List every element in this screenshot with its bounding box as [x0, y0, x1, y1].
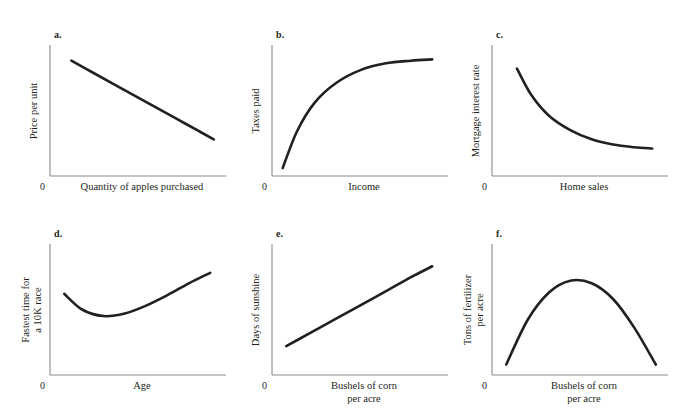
origin-zero-label-c: 0 — [482, 181, 487, 192]
panel-tag-f: f. — [496, 228, 502, 239]
panel-tag-e: e. — [276, 228, 283, 239]
data-curve-c — [517, 69, 652, 149]
panel-e: e.0Bushels of corn per acreDays of sunsh… — [222, 199, 448, 404]
panel-tag-a: a. — [54, 29, 62, 40]
x-axis-label-a: Quantity of apples purchased — [56, 181, 228, 194]
panel-tag-c: c. — [496, 29, 503, 40]
data-curve-f — [506, 280, 656, 365]
y-axis-label-f: Tons of fertilizer per acre — [460, 244, 486, 375]
panel-tag-d: d. — [54, 228, 62, 239]
panel-c: c.0Home salesMortgage interest rate — [442, 0, 668, 205]
panel-f: f.0Bushels of corn per acreTons of ferti… — [442, 199, 668, 404]
x-axis-label-f: Bushels of corn per acre — [498, 380, 670, 405]
panel-tag-b: b. — [276, 29, 284, 40]
y-axis-label-b: Taxes paid — [248, 45, 262, 176]
panel-d: d.0AgeFastest time for a 10K race — [0, 199, 226, 404]
origin-zero-label-b: 0 — [262, 181, 267, 192]
panel-b: b.0IncomeTaxes paid — [222, 0, 448, 205]
panel-a: a.0Quantity of apples purchasedPrice per… — [0, 0, 226, 205]
x-axis-label-e: Bushels of corn per acre — [278, 380, 450, 405]
origin-zero-label-f: 0 — [482, 380, 487, 391]
x-axis-label-c: Home sales — [498, 181, 670, 194]
data-curve-e — [286, 266, 432, 346]
x-axis-label-d: Age — [56, 380, 228, 393]
origin-zero-label-d: 0 — [40, 380, 45, 391]
origin-zero-label-a: 0 — [40, 181, 45, 192]
figure-six-panel-relationships: a.0Quantity of apples purchasedPrice per… — [0, 0, 679, 410]
origin-zero-label-e: 0 — [262, 380, 267, 391]
y-axis-label-c: Mortgage interest rate — [468, 45, 482, 176]
data-curve-a — [71, 61, 213, 140]
x-axis-label-b: Income — [278, 181, 450, 194]
y-axis-label-a: Price per unit — [26, 45, 40, 176]
data-curve-b — [283, 59, 433, 168]
y-axis-label-d: Fastest time for a 10K race — [18, 244, 44, 375]
y-axis-label-e: Days of sunshine — [248, 244, 262, 375]
data-curve-d — [64, 273, 210, 316]
